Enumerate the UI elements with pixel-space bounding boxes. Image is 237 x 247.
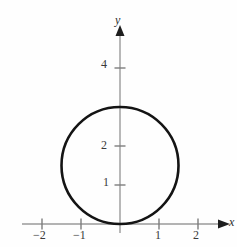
x-axis-label: x bbox=[229, 216, 234, 228]
y-tick-label-4: 4 bbox=[101, 58, 107, 70]
x-tick-label-2: 2 bbox=[193, 229, 199, 241]
y-axis-group bbox=[115, 25, 126, 233]
figure-circle-plot: y y y x 4 2 1 −2 −1 1 2 bbox=[0, 0, 237, 247]
y-tick-label-2: 2 bbox=[101, 139, 107, 151]
y-tick-label-1: 1 bbox=[103, 176, 109, 188]
x-tick-label--2: −2 bbox=[33, 229, 46, 241]
plot-canvas bbox=[0, 0, 237, 247]
y-axis-label: y bbox=[115, 14, 120, 26]
x-tick-label--1: −1 bbox=[73, 229, 86, 241]
x-tick-label-1: 1 bbox=[155, 229, 161, 241]
